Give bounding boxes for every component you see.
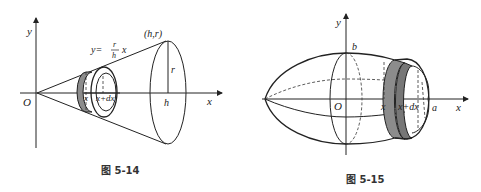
- height-label: h: [164, 97, 169, 108]
- right-dash-2: [422, 82, 425, 118]
- formula-numerator: r: [113, 40, 117, 49]
- slice-x-label-2: x: [380, 101, 386, 112]
- origin-label: O: [23, 96, 31, 108]
- slice-xdx-label-2: x+dx: [397, 101, 419, 112]
- y-axis-label: y: [26, 25, 32, 37]
- x-axis-label: x: [206, 95, 212, 107]
- slice-xdx-label: x+dx: [95, 93, 115, 103]
- ring-inner: [96, 73, 116, 111]
- ring-outer: [91, 67, 117, 117]
- origin-label-2: O: [334, 100, 342, 112]
- semi-minor-label: b: [352, 41, 357, 52]
- caption-fig-5-14: 图 5-14: [101, 165, 140, 176]
- x-axis-label-2: x: [455, 101, 461, 113]
- radius-label: r: [171, 64, 175, 75]
- semi-major-label: a: [432, 102, 437, 113]
- figures-canvas: y x O (h,r) y= r h x r h x x+dx 图 5-14: [0, 0, 481, 192]
- formula: y= r h x: [90, 40, 127, 60]
- figure-cone: y x O (h,r) y= r h x r h x x+dx 图 5-14: [20, 18, 222, 176]
- formula-denominator: h: [112, 51, 116, 60]
- formula-prefix: y=: [90, 44, 102, 55]
- point-label: (h,r): [144, 28, 163, 40]
- formula-suffix: x: [121, 44, 127, 55]
- y-axis-label-2: y: [335, 16, 341, 28]
- figure-ellipsoid: y x O b a x x+dx 图 5-15: [262, 14, 468, 185]
- caption-fig-5-15: 图 5-15: [346, 174, 385, 185]
- shaded-slice: [77, 72, 92, 112]
- slice-x-label: x: [83, 93, 88, 103]
